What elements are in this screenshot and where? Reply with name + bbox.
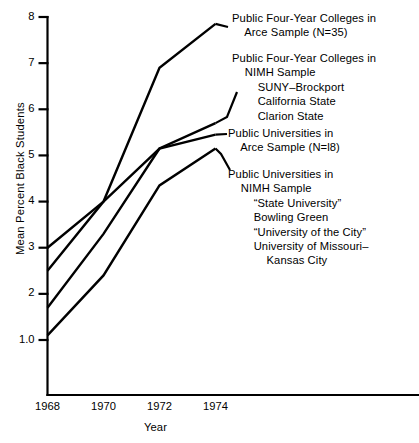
- x-tick-label: 1972: [130, 400, 190, 412]
- annotation-text-line: Public Four-Year Colleges in: [232, 11, 376, 25]
- annotation-nimh-universities: Public Universities in NIMH Sample “Stat…: [228, 167, 369, 268]
- annotation-nimh-colleges: Public Four-Year Colleges in NIMH Sample…: [232, 51, 376, 123]
- x-tick-label: 1970: [74, 400, 134, 412]
- y-axis-title: Mean Percent Black Students: [14, 102, 26, 255]
- y-tick-label: 2: [0, 286, 35, 298]
- annotation-text-line: Kansas City: [228, 253, 369, 267]
- chart-figure: 1.02345678 1968197019721974 Mean Percent…: [0, 0, 419, 443]
- annotation-text-line: “University of the City”: [228, 225, 369, 239]
- x-tick-label: 1974: [186, 400, 246, 412]
- series-line: [48, 123, 216, 308]
- annotation-arce-universities: Public Universities in Arce Sample (N=l8…: [228, 126, 340, 155]
- annotation-text-line: Arce Sample (N=l8): [228, 140, 340, 154]
- annotation-text-line: Public Four-Year Colleges in: [232, 51, 376, 65]
- annotation-leader-line: [216, 24, 229, 27]
- annotation-text-line: “State University”: [228, 196, 369, 210]
- data-series-group: [48, 24, 216, 335]
- annotation-text-line: Clarion State: [232, 109, 376, 123]
- annotation-arce-colleges: Public Four-Year Colleges in Arce Sample…: [232, 11, 376, 40]
- series-line: [48, 24, 216, 271]
- annotation-text-line: NIMH Sample: [228, 181, 369, 195]
- annotation-text-line: Bowling Green: [228, 210, 369, 224]
- annotation-text-line: California State: [232, 94, 376, 108]
- annotation-text-line: NIMH Sample: [232, 65, 376, 79]
- y-tick-label: 1.0: [0, 333, 35, 345]
- y-tick-label: 8: [0, 10, 35, 22]
- annotation-text-line: Public Universities in: [228, 167, 369, 181]
- annotation-text-line: Arce Sample (N=35): [232, 25, 376, 39]
- annotation-text-line: University of Missouri–: [228, 239, 369, 253]
- annotation-text-line: Public Universities in: [228, 126, 340, 140]
- annotation-leader-line: [216, 134, 228, 135]
- annotation-text-line: SUNY–Brockport: [232, 80, 376, 94]
- x-axis-title: Year: [144, 421, 167, 433]
- x-tick-label: 1968: [18, 400, 78, 412]
- y-tick-label: 7: [0, 56, 35, 68]
